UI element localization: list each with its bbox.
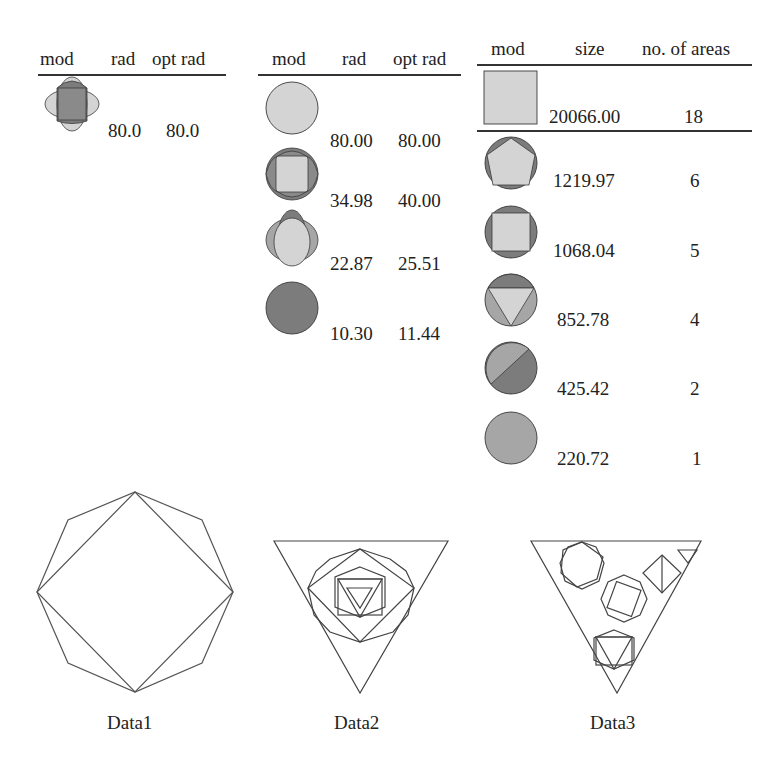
table-3-row-5-size: 425.42 [557, 378, 609, 400]
four-lobe-shape-icon [44, 76, 100, 132]
pentagon-in-circle-icon [483, 135, 539, 191]
data1-diagram [30, 485, 250, 715]
table-3-row-2-areas: 6 [690, 170, 700, 192]
caption-data1: Data1 [107, 712, 152, 734]
table-2-row-3-opt-rad: 25.51 [398, 253, 441, 275]
table-2-header-rule [258, 74, 461, 76]
table-3-row-6-size: 220.72 [557, 448, 609, 470]
table-3-row-2-size: 1219.97 [553, 170, 615, 192]
triangle-in-circle-icon [483, 272, 539, 328]
caption-data2: Data2 [334, 712, 379, 734]
table-1-header-mod: mod [40, 48, 74, 70]
square-four-lobes-icon [264, 146, 320, 202]
table-3-header-mod: mod [491, 38, 525, 60]
table-2-header-rad: rad [342, 48, 366, 70]
caption-data3: Data3 [590, 712, 635, 734]
table-3-row-4-size: 852.78 [557, 309, 609, 331]
table-1-header-opt-rad: opt rad [152, 48, 205, 70]
split-circle-icon [483, 340, 539, 396]
table-2: mod rad opt rad 80.00 80.00 34.98 40.00 … [258, 48, 463, 348]
table-3-header-rule [477, 64, 752, 66]
table-3-row-3-areas: 5 [690, 240, 700, 262]
table-3-row-rule [477, 130, 752, 132]
table-3-header-areas: no. of areas [642, 38, 730, 60]
table-1-header-rad: rad [111, 48, 135, 70]
table-3-row-1-areas: 18 [684, 106, 703, 128]
data3-diagram [525, 535, 715, 705]
table-2-header-mod: mod [272, 48, 306, 70]
medium-circle-icon [483, 410, 539, 466]
table-3-row-6-areas: 1 [692, 448, 702, 470]
table-2-row-1-rad: 80.00 [330, 130, 373, 152]
dark-circle-icon [264, 280, 320, 336]
table-2-row-3-rad: 22.87 [330, 253, 373, 275]
table-2-row-4-opt-rad: 11.44 [398, 323, 440, 345]
table-3-row-5-areas: 2 [690, 378, 700, 400]
light-circle-icon [264, 80, 320, 136]
table-2-row-2-opt-rad: 40.00 [398, 190, 441, 212]
table-2-header-opt-rad: opt rad [393, 48, 446, 70]
table-3-header-size: size [575, 38, 605, 60]
light-square-icon [483, 70, 539, 126]
table-3-row-4-areas: 4 [690, 309, 700, 331]
oval-four-lobes-icon [264, 208, 320, 268]
table-1-opt-rad-value: 80.0 [166, 120, 199, 142]
table-2-row-4-rad: 10.30 [330, 323, 373, 345]
table-1: mod rad opt rad 80.0 80.0 [38, 48, 228, 138]
table-2-row-1-opt-rad: 80.00 [398, 130, 441, 152]
data2-diagram [268, 535, 458, 705]
table-2-row-2-rad: 34.98 [330, 190, 373, 212]
table-3-row-1-size: 20066.00 [549, 106, 620, 128]
table-3: mod size no. of areas 20066.00 18 1219.9… [477, 38, 757, 478]
square-in-circle-icon [483, 204, 539, 260]
table-3-row-3-size: 1068.04 [553, 240, 615, 262]
table-1-rad-value: 80.0 [108, 120, 141, 142]
